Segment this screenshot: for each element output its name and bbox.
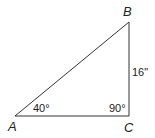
triangle-diagram: B A C 40° 90° 16" bbox=[0, 0, 155, 138]
vertex-label-a: A bbox=[7, 119, 17, 134]
angle-a-measure: 40° bbox=[33, 102, 50, 114]
vertex-label-c: C bbox=[124, 120, 134, 135]
vertex-label-b: B bbox=[123, 4, 132, 19]
side-bc-length: 16" bbox=[132, 66, 148, 78]
angle-c-measure: 90° bbox=[109, 102, 126, 114]
